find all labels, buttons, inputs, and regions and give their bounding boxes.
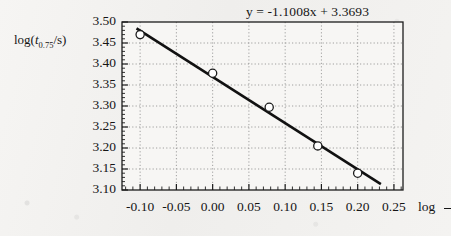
y-axis-tick-label-1: 3.15 (72, 160, 116, 176)
data-point-3 (314, 142, 322, 150)
y-axis-tick-label-0: 3.10 (72, 181, 116, 197)
data-point-2 (265, 103, 273, 111)
data-point-0 (136, 30, 144, 38)
y-axis-tick-label-7: 3.45 (72, 34, 116, 50)
y-axis-tick-label-4: 3.30 (72, 97, 116, 113)
y-axis-tick-label-6: 3.40 (72, 55, 116, 71)
y-axis-tick-label-3: 3.25 (72, 118, 116, 134)
data-point-4 (354, 169, 362, 177)
data-point-1 (209, 69, 217, 77)
chart-figure: y = -1.1008x + 3.3693 log(t0.75/s) log 3… (0, 0, 451, 236)
x-axis-tick-label-7: 0.25 (368, 199, 420, 215)
y-axis-tick-label-8: 3.50 (72, 13, 116, 29)
y-axis-tick-label-5: 3.35 (72, 76, 116, 92)
y-axis-tick-label-2: 3.20 (72, 139, 116, 155)
